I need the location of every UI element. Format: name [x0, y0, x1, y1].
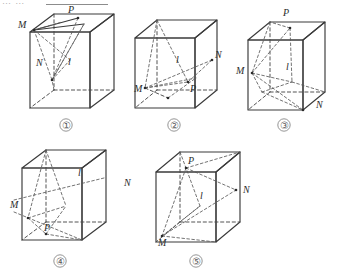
cube-2-label-P: P [189, 83, 196, 94]
cube-5-label-N: N [242, 184, 251, 195]
svg-text:②: ② [170, 120, 179, 131]
cube-5-label-M: M [157, 237, 167, 248]
cube-1-label-M: M [17, 19, 27, 30]
cube-1-label-l: l [68, 56, 71, 67]
cube-1-label-P: P [67, 4, 74, 15]
cube-4-label-P: P [43, 222, 50, 233]
cube-diagram-svg: M P N l ① l N M P ② [0, 0, 339, 277]
cube-5-label-P: P [187, 155, 194, 166]
cube-2-label-l: l [176, 54, 179, 65]
cube-4-label-l: l [78, 167, 81, 178]
cube-5: P N l M ⑤ [156, 152, 251, 267]
cube-4-label-M: M [9, 199, 19, 210]
cube-3: P M l N ③ [235, 7, 325, 131]
cube-3-label-N: N [315, 99, 324, 110]
cube-3-label-M: M [235, 65, 245, 76]
cube-5-number: ⑤ [190, 255, 202, 267]
cube-1: M P N l ① [17, 4, 114, 131]
cube-5-label-l: l [200, 190, 203, 201]
cube-3-label-P: P [282, 7, 289, 18]
cube-4-label-N: N [123, 177, 132, 188]
svg-text:③: ③ [280, 120, 289, 131]
cube-1-label-N: N [35, 57, 44, 68]
svg-text:⑤: ⑤ [192, 256, 201, 267]
cube-4-number: ④ [54, 255, 66, 267]
cube-1-number: ① [60, 119, 72, 131]
five-cube-figure: M P N l ① l N M P ② [0, 0, 339, 277]
cube-2-label-M: M [133, 83, 143, 94]
cube-3-number: ③ [278, 119, 290, 131]
cube-4: l N M P ④ [9, 150, 132, 267]
svg-text:④: ④ [56, 256, 65, 267]
cube-3-label-l: l [286, 61, 289, 72]
svg-text:①: ① [62, 120, 71, 131]
cube-2-number: ② [168, 119, 180, 131]
cube-2: l N M P ② [133, 20, 223, 131]
cube-2-label-N: N [214, 49, 223, 60]
